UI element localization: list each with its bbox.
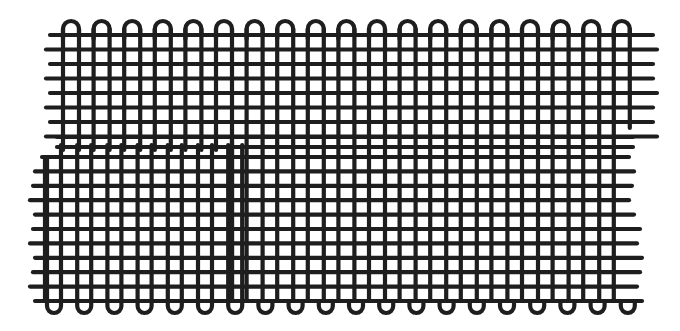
weave-illustration [0,0,680,331]
weave-grid-drawing [0,0,680,331]
